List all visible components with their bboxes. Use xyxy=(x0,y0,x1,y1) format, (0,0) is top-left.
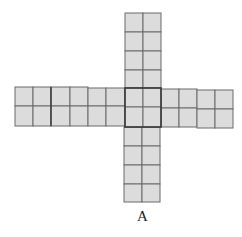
left-arm xyxy=(15,87,125,126)
figure-label: A xyxy=(137,208,148,225)
center-block xyxy=(125,88,161,127)
cross-grid-diagram xyxy=(0,0,242,237)
bottom-arm xyxy=(124,127,160,202)
right-arm xyxy=(161,89,233,128)
top-arm xyxy=(125,13,161,88)
